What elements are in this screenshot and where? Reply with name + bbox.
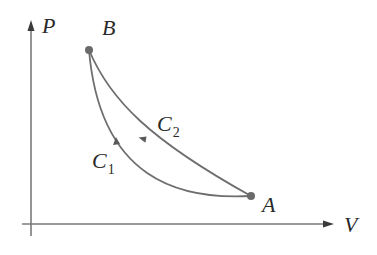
curve-c2-label: C2 [157, 113, 180, 135]
point-a-label: A [262, 194, 275, 216]
point-a-marker [247, 192, 255, 200]
point-b-marker [85, 46, 93, 54]
y-axis-arrowhead-icon [28, 20, 35, 31]
x-axis-arrowhead-icon [323, 221, 334, 228]
pv-diagram: P V B A C2 C1 [0, 0, 377, 255]
diagram-canvas [0, 0, 377, 255]
c2-letter: C [157, 111, 172, 136]
c1-letter: C [92, 148, 107, 173]
x-axis-label: V [344, 214, 357, 236]
c1-subscript: 1 [108, 162, 115, 177]
c2-direction-arrow-icon [139, 136, 148, 143]
curve-c1-label: C1 [92, 150, 115, 172]
c2-subscript: 2 [173, 125, 180, 140]
y-axis-label: P [42, 15, 55, 37]
point-b-label: B [102, 17, 115, 39]
